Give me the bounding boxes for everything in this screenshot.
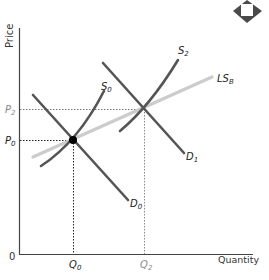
equilibrium-dot [69,136,77,144]
s2-label: S2 [178,45,189,58]
supply-demand-chart: Price 0 Quantity P2 P0 Q0 Q2 S0 S2 LSB D… [0,0,269,280]
ls-curve [33,77,212,157]
y-axis-label: Price [4,24,15,48]
q2-label: Q2 [140,259,153,272]
ls-label: LSB [217,73,234,86]
q0-label: Q0 [69,259,82,272]
d0-label: D0 [130,198,143,211]
d1-curve [103,63,184,153]
d0-curve [33,95,128,200]
p0-label: P0 [5,135,16,148]
d1-label: D1 [186,151,198,164]
x-axis-label: Quantity [218,254,259,265]
origin-label: 0 [9,251,15,262]
diamond-navigation-icon[interactable] [233,0,262,23]
p2-label: P2 [5,104,16,117]
